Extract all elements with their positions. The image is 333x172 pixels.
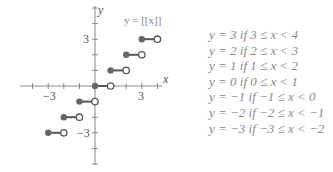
x-axis-label: x [162, 72, 169, 86]
x-tick-label-neg3: −3 [43, 89, 56, 103]
case-line: y = 3 if 3 ≤ x < 4 [209, 27, 324, 43]
open-endpoint-dot [92, 98, 98, 104]
y-tick-label-neg3: −3 [77, 126, 90, 140]
closed-endpoint-dot [45, 130, 51, 136]
case-line: y = −3 if −3 ≤ x < −2 [209, 121, 324, 137]
axes [20, 6, 162, 165]
open-endpoint-dot [76, 114, 82, 120]
open-endpoint-dot [107, 83, 113, 89]
case-line: y = 1 if 1 ≤ x < 2 [209, 58, 324, 74]
piecewise-cases: y = 3 if 3 ≤ x < 4 y = 2 if 2 ≤ x < 3 y … [209, 27, 324, 136]
closed-endpoint-dot [92, 83, 98, 89]
step-segment [76, 98, 98, 104]
case-line: y = 2 if 2 ≤ x < 3 [209, 43, 324, 59]
open-endpoint-dot [139, 52, 145, 58]
open-endpoint-dot [154, 36, 160, 42]
open-endpoint-dot [123, 67, 129, 73]
step-function-graph: y x y = [[x]] −3 3 3 −3 [0, 0, 200, 172]
step-segment [123, 52, 145, 58]
y-axis-label: y [97, 3, 104, 17]
case-line: y = −2 if −2 ≤ x < −1 [209, 105, 324, 121]
closed-endpoint-dot [61, 114, 67, 120]
open-endpoint-dot [61, 130, 67, 136]
graph-title: y = [[x]] [124, 14, 161, 26]
step-segment [61, 114, 83, 120]
y-tick-label-3: 3 [83, 32, 89, 46]
step-segment [45, 130, 67, 136]
x-tick-label-3: 3 [138, 89, 144, 103]
step-segment [107, 67, 129, 73]
closed-endpoint-dot [76, 98, 82, 104]
closed-endpoint-dot [107, 67, 113, 73]
case-line: y = 0 if 0 ≤ x < 1 [209, 74, 324, 90]
step-segment [139, 36, 161, 42]
step-segment [92, 83, 114, 89]
closed-endpoint-dot [123, 52, 129, 58]
closed-endpoint-dot [139, 36, 145, 42]
case-line: y = −1 if −1 ≤ x < 0 [209, 89, 324, 105]
